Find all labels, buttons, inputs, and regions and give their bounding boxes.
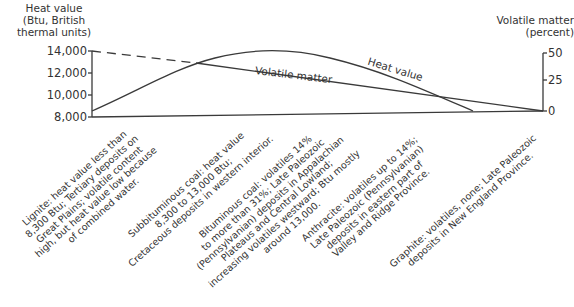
volatile-matter-dashed [92,51,196,63]
volatile-matter-line [196,63,543,111]
x-axis-line [92,111,543,117]
